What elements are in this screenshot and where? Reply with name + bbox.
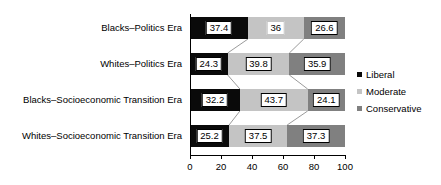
legend-item[interactable]: Liberal bbox=[357, 66, 441, 83]
chart-legend: LiberalModerateConservative bbox=[357, 66, 441, 117]
bar-segment-conservative: 24.1 bbox=[308, 89, 345, 111]
segment-value-label: 37.5 bbox=[245, 129, 272, 143]
segment-value-label: 32.2 bbox=[202, 93, 229, 107]
bar-segment-conservative: 35.9 bbox=[289, 53, 345, 75]
segment-value-label: 37.4 bbox=[206, 21, 233, 35]
bar-segment-moderate: 39.8 bbox=[228, 53, 290, 75]
category-label: Blacks–Socioeconomic Transition Era bbox=[0, 95, 182, 105]
legend-label: Liberal bbox=[366, 69, 395, 80]
bar-segment-liberal: 24.3 bbox=[190, 53, 228, 75]
segment-value-label: 43.7 bbox=[261, 93, 288, 107]
segment-value-label: 25.2 bbox=[196, 129, 223, 143]
bar-segment-moderate: 36 bbox=[248, 17, 304, 39]
legend-label: Conservative bbox=[366, 103, 421, 114]
category-label: Whites–Socioeconomic Transition Era bbox=[0, 131, 182, 141]
x-axis-line bbox=[190, 155, 346, 156]
value-axis-line bbox=[190, 14, 191, 156]
category-label: Whites–Politics Era bbox=[0, 59, 182, 69]
legend-square-marker-icon bbox=[357, 72, 362, 77]
segment-value-label: 36 bbox=[267, 21, 286, 35]
plot-area: 37.43626.624.339.835.932.243.724.125.237… bbox=[190, 14, 345, 155]
x-axis-tick bbox=[190, 155, 191, 159]
bar-segment-liberal: 25.2 bbox=[190, 125, 229, 147]
legend-item[interactable]: Moderate bbox=[357, 83, 441, 100]
stacked-bar-chart: Blacks–Politics EraWhites–Politics EraBl… bbox=[0, 0, 441, 185]
bar-segment-conservative: 26.6 bbox=[304, 17, 345, 39]
bar-segment-moderate: 43.7 bbox=[240, 89, 308, 111]
x-axis-tick bbox=[314, 155, 315, 159]
bar-segment-moderate: 37.5 bbox=[229, 125, 287, 147]
bar-row: 37.43626.6 bbox=[190, 17, 345, 39]
x-axis-tick bbox=[283, 155, 284, 159]
legend-label: Moderate bbox=[366, 86, 406, 97]
x-axis-tick-label: 60 bbox=[278, 161, 289, 172]
legend-square-marker-icon bbox=[357, 89, 362, 94]
bar-segment-conservative: 37.3 bbox=[287, 125, 345, 147]
x-axis-tick-label: 100 bbox=[337, 161, 353, 172]
segment-value-label: 26.6 bbox=[311, 21, 338, 35]
x-axis-tick-label: 80 bbox=[309, 161, 320, 172]
category-label: Blacks–Politics Era bbox=[0, 23, 182, 33]
bar-row: 32.243.724.1 bbox=[190, 89, 345, 111]
x-axis-tick-label: 20 bbox=[216, 161, 227, 172]
bar-row: 24.339.835.9 bbox=[190, 53, 345, 75]
legend-square-marker-icon bbox=[357, 106, 362, 111]
segment-value-label: 24.1 bbox=[313, 93, 340, 107]
x-axis-tick bbox=[221, 155, 222, 159]
x-axis-tick bbox=[252, 155, 253, 159]
bar-row: 25.237.537.3 bbox=[190, 125, 345, 147]
segment-value-label: 37.3 bbox=[303, 129, 330, 143]
segment-value-label: 35.9 bbox=[304, 57, 331, 71]
segment-value-label: 24.3 bbox=[196, 57, 223, 71]
legend-item[interactable]: Conservative bbox=[357, 100, 441, 117]
category-axis-labels: Blacks–Politics EraWhites–Politics EraBl… bbox=[0, 14, 186, 154]
bar-segment-liberal: 37.4 bbox=[190, 17, 248, 39]
segment-value-label: 39.8 bbox=[245, 57, 272, 71]
bar-segment-liberal: 32.2 bbox=[190, 89, 240, 111]
x-axis-tick-label: 40 bbox=[247, 161, 258, 172]
x-axis-tick bbox=[345, 155, 346, 159]
x-axis-tick-label: 0 bbox=[187, 161, 192, 172]
